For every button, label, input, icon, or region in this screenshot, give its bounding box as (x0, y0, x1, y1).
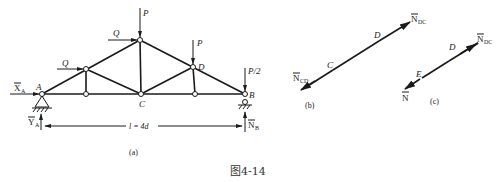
figure-caption: 图4-14 (230, 165, 266, 178)
label-force-ncd: N CD (293, 73, 309, 84)
force-arrow-ndc-b (379, 22, 410, 41)
diagonal-left (86, 69, 141, 94)
top-chord-left (42, 40, 140, 94)
member-cd-mid-segment (333, 41, 379, 70)
svg-text:A: A (35, 122, 40, 128)
node-c (139, 92, 144, 97)
pin-support-a (32, 96, 52, 112)
label-node-d-b: D (373, 30, 381, 40)
subfigure-label-b: (b) (305, 101, 315, 110)
label-node-c: C (139, 99, 146, 109)
force-arrow-n-c (405, 79, 420, 89)
vertical-member-3 (193, 67, 195, 94)
label-node-d: D (197, 62, 205, 72)
label-node-b: B (249, 90, 255, 100)
label-force-ndc-b: N DC (411, 14, 426, 25)
svg-text:B: B (255, 125, 259, 131)
node-bottom-2 (84, 92, 89, 97)
label-force-n-c: N (402, 92, 409, 103)
member-ed-lower (422, 61, 449, 78)
svg-text:X: X (14, 83, 21, 93)
svg-text:N: N (248, 120, 255, 130)
label-load-p-d: P (196, 38, 203, 48)
label-span: l = 4d (129, 122, 150, 131)
roller-support-b (238, 100, 252, 110)
label-node-c-b: C (327, 60, 334, 70)
svg-text:Y: Y (28, 117, 35, 127)
label-node-d-c: D (448, 42, 456, 52)
svg-text:N: N (402, 93, 409, 103)
diagonal-cd (141, 67, 193, 94)
svg-text:DC: DC (418, 19, 426, 25)
subfigure-label-c: (c) (430, 97, 439, 106)
node-apex (138, 38, 143, 43)
node-upper-left (84, 67, 89, 72)
label-force-ndc-c: N DC (477, 34, 492, 45)
label-load-p-apex: P (142, 8, 149, 18)
svg-text:A: A (21, 88, 26, 94)
svg-text:N: N (411, 14, 418, 24)
truss-diagram: A C D B P P P/2 Q Q (10, 8, 261, 157)
label-node-e-c: E (415, 69, 422, 79)
label-load-p-half: P/2 (247, 66, 261, 76)
node-d (191, 65, 196, 70)
label-reaction-ya: Y A (28, 117, 40, 128)
node-bottom-4 (193, 92, 198, 97)
label-reaction-nb: N B (248, 120, 259, 131)
svg-text:N: N (477, 34, 484, 44)
node-b (243, 92, 248, 97)
svg-text:CD: CD (300, 78, 309, 84)
vertical-member-center (140, 40, 141, 94)
figure-canvas: A C D B P P P/2 Q Q (0, 0, 497, 182)
label-load-q-lower: Q (62, 58, 69, 68)
label-node-a: A (35, 82, 42, 92)
fig-c-joint: E D N N DC (c) (402, 34, 492, 106)
force-arrow-ndc-c (460, 44, 476, 54)
label-reaction-xa: X A (14, 83, 26, 94)
svg-text:N: N (293, 73, 300, 83)
label-load-q-upper: Q (113, 28, 120, 38)
svg-text:DC: DC (484, 39, 492, 45)
subfigure-label-a: (a) (129, 148, 138, 157)
